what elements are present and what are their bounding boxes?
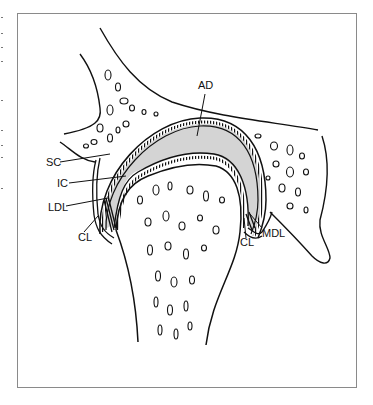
- lower-bone: [116, 164, 241, 345]
- label-IC: IC: [57, 177, 68, 189]
- label-AD: AD: [198, 79, 213, 91]
- label-CL-left: CL: [78, 231, 92, 243]
- joint-diagram: AD SC IC LDL CL MDL CL: [0, 0, 373, 405]
- label-MDL: MDL: [262, 227, 285, 239]
- label-SC: SC: [46, 156, 61, 168]
- label-CL-right: CL: [240, 236, 254, 248]
- label-LDL: LDL: [48, 201, 68, 213]
